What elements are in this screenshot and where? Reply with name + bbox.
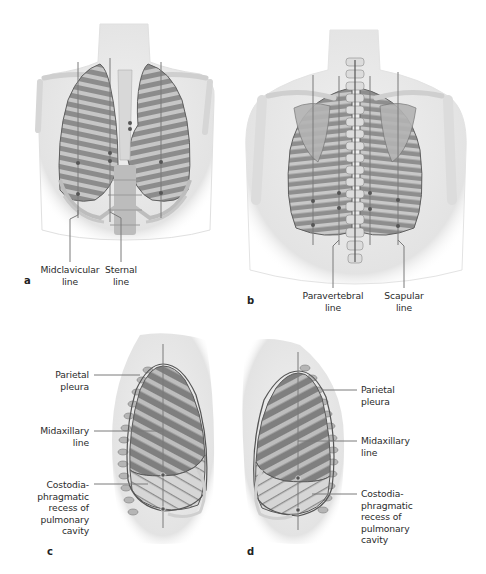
costodiaphragmatic-recess-label-d: Costodia- phragmatic recess of pulmonary… [361, 488, 441, 546]
anatomy-figure: Midclavicular line Sternal line a Parave… [0, 0, 486, 574]
parietal-pleura-d-line1: Parietal [361, 384, 441, 396]
paravertebral-label-line1: Paravertebral [301, 290, 365, 302]
panel-letter-a: a [24, 275, 31, 286]
costodiaphragmatic-c-line5: cavity [20, 525, 89, 537]
parietal-pleura-d-line2: pleura [361, 396, 441, 408]
parietal-pleura-label-d: Parietal pleura [361, 384, 441, 407]
parietal-pleura-c-line2: pleura [20, 381, 89, 393]
midclavicular-line-label: Midclavicular line [38, 264, 102, 287]
scapular-label-line2: line [381, 302, 427, 314]
paravertebral-label-line2: line [301, 302, 365, 314]
costodiaphragmatic-recess-label-c: Costodia- phragmatic recess of pulmonary… [20, 479, 89, 537]
figure-caption [4, 566, 484, 574]
midaxillary-c-line1: Midaxillary [20, 425, 89, 437]
costodiaphragmatic-d-line1: Costodia- [361, 488, 441, 500]
parietal-pleura-label-c: Parietal pleura [20, 369, 89, 392]
parietal-pleura-c-line1: Parietal [20, 369, 89, 381]
panel-c-illustration [94, 333, 214, 544]
midclavicular-label-line1: Midclavicular [38, 264, 102, 276]
costodiaphragmatic-d-line2: phragmatic [361, 500, 441, 512]
costodiaphragmatic-d-line5: cavity [361, 534, 441, 546]
scapular-label-line1: Scapular [381, 290, 427, 302]
paravertebral-line-label: Paravertebral line [301, 290, 365, 313]
panel-letter-c: c [47, 546, 53, 557]
midclavicular-label-line2: line [38, 276, 102, 288]
midaxillary-line-label-d: Midaxillary line [361, 435, 441, 458]
panel-d-illustration [242, 339, 357, 544]
panel-a-illustration [38, 24, 214, 262]
costodiaphragmatic-c-line1: Costodia- [20, 479, 89, 491]
midaxillary-d-line1: Midaxillary [361, 435, 441, 447]
sternal-label-line2: line [101, 276, 141, 288]
panel-b-illustration [246, 30, 466, 288]
midaxillary-d-line2: line [361, 447, 441, 459]
panel-letter-b: b [247, 295, 254, 306]
panel-letter-d: d [247, 546, 254, 557]
sternal-label-line1: Sternal [101, 264, 141, 276]
scapular-line-label: Scapular line [381, 290, 427, 313]
sternal-line-label: Sternal line [101, 264, 141, 287]
costodiaphragmatic-c-line4: pulmonary [20, 514, 89, 526]
midaxillary-line-label-c: Midaxillary line [20, 425, 89, 448]
costodiaphragmatic-c-line2: phragmatic [20, 491, 89, 503]
midaxillary-c-line2: line [20, 437, 89, 449]
costodiaphragmatic-c-line3: recess of [20, 502, 89, 514]
costodiaphragmatic-d-line4: pulmonary [361, 523, 441, 535]
costodiaphragmatic-d-line3: recess of [361, 511, 441, 523]
